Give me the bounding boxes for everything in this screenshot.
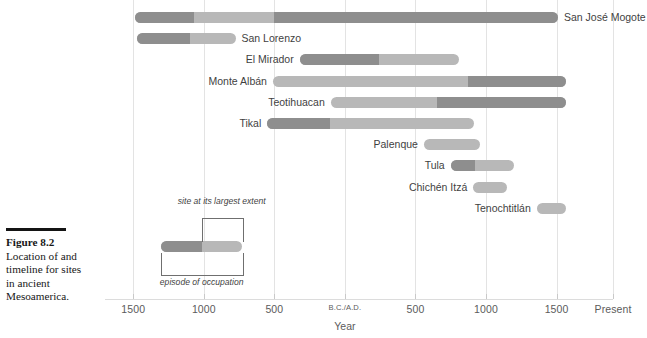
axis-tick-label: 500 bbox=[265, 303, 283, 315]
timeline-row: Chichén Itzá bbox=[0, 181, 647, 195]
timeline-bar-label: Tikal bbox=[239, 117, 261, 130]
axis-tick bbox=[486, 294, 487, 299]
largest-extent-segment bbox=[135, 12, 194, 23]
timeline-bar bbox=[267, 118, 474, 129]
legend-label-largest-extent: site at its largest extent bbox=[177, 196, 267, 206]
timeline-row: San José Mogote bbox=[0, 11, 647, 25]
largest-extent-segment bbox=[274, 12, 558, 23]
x-axis-title: Year bbox=[334, 320, 355, 332]
timeline-chart: San José MogoteSan LorenzoEl MiradorMont… bbox=[0, 0, 647, 338]
timeline-row: Tikal bbox=[0, 117, 647, 131]
caption-body: Location of and timeline for sites in an… bbox=[6, 250, 86, 304]
timeline-bar-label: El Mirador bbox=[246, 53, 294, 66]
timeline-row: Tula bbox=[0, 159, 647, 173]
timeline-bar bbox=[273, 76, 567, 87]
timeline-row: Monte Albán bbox=[0, 75, 647, 89]
axis-tick bbox=[415, 294, 416, 299]
timeline-bar bbox=[451, 160, 515, 171]
axis-tick-label: 1000 bbox=[474, 303, 498, 315]
largest-extent-segment bbox=[137, 33, 190, 44]
axis-tick bbox=[133, 294, 134, 299]
largest-extent-segment bbox=[300, 54, 380, 65]
timeline-row: San Lorenzo bbox=[0, 32, 647, 46]
timeline-row: El Mirador bbox=[0, 53, 647, 67]
timeline-bar bbox=[424, 139, 480, 150]
caption-title: Figure 8.2 bbox=[6, 236, 86, 250]
axis-tick-label: 500 bbox=[407, 303, 425, 315]
axis-tick-label: B.C./A.D. bbox=[329, 303, 362, 312]
timeline-bar-label: San Lorenzo bbox=[242, 32, 302, 45]
legend-largest-extent-segment bbox=[161, 241, 201, 252]
legend-bracket-lower bbox=[161, 253, 243, 276]
timeline-bar bbox=[473, 182, 507, 193]
largest-extent-segment bbox=[437, 97, 566, 108]
axis-tick bbox=[204, 294, 205, 299]
timeline-bar-label: Palenque bbox=[374, 138, 418, 151]
axis-tick bbox=[274, 294, 275, 299]
timeline-bar-label: Monte Albán bbox=[209, 75, 267, 88]
largest-extent-segment bbox=[451, 160, 475, 171]
timeline-bar-label: Teotihuacan bbox=[268, 96, 325, 109]
timeline-bar bbox=[135, 12, 558, 23]
largest-extent-segment bbox=[267, 118, 330, 129]
timeline-bar bbox=[137, 33, 236, 44]
timeline-row: Teotihuacan bbox=[0, 96, 647, 110]
timeline-bar-label: Tenochtitlán bbox=[475, 202, 531, 215]
legend-bracket-upper bbox=[202, 218, 244, 242]
timeline-bar-label: San José Mogote bbox=[564, 11, 646, 24]
axis-baseline bbox=[105, 299, 613, 300]
caption-rule bbox=[6, 228, 66, 231]
largest-extent-segment bbox=[468, 76, 567, 87]
axis-tick-label: 1000 bbox=[192, 303, 216, 315]
timeline-bar-label: Tula bbox=[425, 159, 445, 172]
legend-example-bar bbox=[161, 241, 241, 252]
timeline-row: Tenochtitlán bbox=[0, 202, 647, 216]
legend-label-occupation: episode of occupation bbox=[160, 277, 244, 287]
axis-tick bbox=[345, 294, 346, 299]
axis-tick-label: 1500 bbox=[545, 303, 569, 315]
axis-tick bbox=[613, 294, 614, 299]
axis-tick-label: 1500 bbox=[121, 303, 145, 315]
timeline-row: Palenque bbox=[0, 138, 647, 152]
axis-tick-label: Present bbox=[595, 303, 632, 315]
axis-tick bbox=[557, 294, 558, 299]
figure-caption: Figure 8.2 Location of and timeline for … bbox=[6, 228, 86, 304]
timeline-bar-label: Chichén Itzá bbox=[409, 181, 467, 194]
timeline-bar bbox=[300, 54, 459, 65]
timeline-bar bbox=[331, 97, 567, 108]
timeline-bar bbox=[537, 203, 566, 214]
